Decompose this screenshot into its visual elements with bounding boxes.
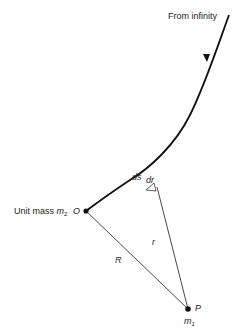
point-O (83, 208, 88, 213)
trajectory-curve (86, 15, 229, 211)
label-from-infinity: From infinity (168, 11, 218, 21)
label-O: O (73, 206, 80, 216)
line-R (86, 211, 188, 309)
label-P: P (195, 303, 201, 313)
line-r (157, 187, 188, 309)
label-r: r (152, 237, 156, 247)
point-P (185, 306, 191, 312)
label-unit-mass: Unit mass m2 (14, 206, 68, 217)
label-m1: m1 (184, 316, 195, 327)
direction-arrow-icon (203, 54, 210, 62)
label-ds: ds (132, 172, 142, 182)
label-R: R (115, 255, 122, 265)
diagram-canvas: From infinity Unit mass m2 O ds dr r R P… (0, 0, 241, 332)
label-dr: dr (146, 175, 155, 185)
